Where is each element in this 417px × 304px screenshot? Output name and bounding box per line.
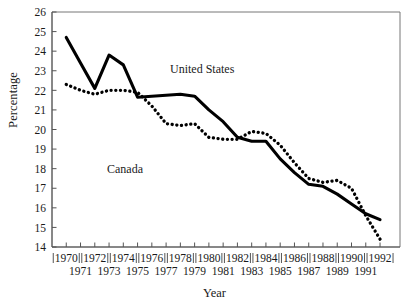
x-tick-label-upper: 1992 [369, 252, 392, 264]
series-line-canada [66, 84, 380, 239]
x-tick-label-lower: 1987 [297, 265, 320, 277]
y-tick-label: 21 [35, 104, 47, 116]
y-axis-ticks: 14151617181920212223242526 [35, 6, 57, 253]
line-chart: 14151617181920212223242526 1970197119721… [0, 0, 417, 304]
x-tick-label-lower: 1973 [98, 265, 121, 277]
x-tick-label-upper: 1978 [169, 252, 192, 264]
x-tick-label-lower: 1977 [155, 265, 178, 277]
y-tick-label: 18 [35, 163, 47, 175]
x-tick-label-upper: 1970 [55, 252, 78, 264]
y-tick-label: 19 [35, 143, 47, 155]
x-tick-label-upper: 1984 [254, 252, 277, 264]
x-tick-label-lower: 1981 [212, 265, 235, 277]
x-tick-label-upper: 1974 [112, 252, 135, 264]
x-tick-label-upper: 1990 [340, 252, 363, 264]
y-tick-label: 15 [35, 222, 47, 234]
y-tick-label: 25 [35, 26, 47, 38]
axes [52, 12, 400, 247]
y-tick-label: 26 [35, 6, 47, 18]
x-tick-label-upper: 1976 [140, 252, 163, 264]
y-tick-label: 22 [35, 85, 47, 97]
y-tick-label: 14 [35, 241, 47, 253]
series-lines [66, 37, 380, 239]
x-tick-label-lower: 1983 [240, 265, 263, 277]
x-tick-label-upper: 1972 [83, 252, 106, 264]
y-tick-label: 20 [35, 124, 47, 136]
y-tick-label: 17 [35, 182, 47, 194]
x-tick-label-upper: 1988 [311, 252, 334, 264]
x-axis-tick-labels: 1970197119721973197419751976197719781979… [53, 252, 393, 277]
y-tick-label: 16 [35, 202, 47, 214]
x-tick-label-upper: 1980 [197, 252, 220, 264]
x-tick-label-lower: 1979 [183, 265, 206, 277]
x-tick-label-upper: 1982 [226, 252, 249, 264]
x-axis-ticks [66, 243, 380, 248]
plot-border [52, 12, 400, 247]
y-tick-label: 23 [35, 65, 47, 77]
x-tick-label-lower: 1989 [326, 265, 349, 277]
x-tick-label-lower: 1991 [354, 265, 377, 277]
x-tick-label-lower: 1975 [126, 265, 149, 277]
chart-plot-area: 14151617181920212223242526 1970197119721… [0, 0, 417, 304]
x-tick-label-upper: 1986 [283, 252, 306, 264]
x-tick-label-lower: 1971 [69, 265, 92, 277]
x-tick-label-lower: 1985 [269, 265, 292, 277]
y-tick-label: 24 [35, 45, 47, 57]
plot-frame [52, 12, 400, 247]
series-line-united-states [66, 37, 380, 219]
